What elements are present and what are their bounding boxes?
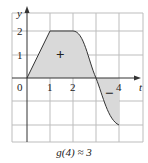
- x-tick-1: 1: [47, 81, 53, 93]
- x-axis-label: t: [139, 81, 143, 93]
- x-tick-2: 2: [70, 81, 76, 93]
- caption: g(4) ≈ 3: [0, 146, 148, 158]
- x-axis-arrow-icon: [134, 76, 141, 81]
- caption-text: g(4) ≈ 3: [56, 146, 91, 158]
- plus-sign: +: [56, 46, 65, 62]
- area-chart: y t 0 1 2 4 1 2 + −: [0, 0, 148, 145]
- y-axis-label: y: [16, 7, 22, 19]
- y-axis-arrow-icon: [25, 6, 30, 13]
- minus-sign: −: [105, 85, 114, 101]
- origin-label: 0: [17, 81, 23, 93]
- y-tick-1: 1: [17, 49, 23, 61]
- y-tick-2: 2: [17, 25, 23, 37]
- x-tick-4: 4: [116, 81, 122, 93]
